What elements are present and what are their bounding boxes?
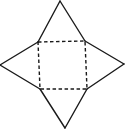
triangle-top-edge — [38, 1, 60, 42]
triangle-left-edge — [0, 42, 38, 65]
base-square-dashed — [38, 41, 87, 89]
triangle-left-edge — [0, 65, 40, 89]
pyramid-net-diagram — [0, 0, 125, 129]
triangle-bottom-edge — [65, 89, 87, 128]
triangle-faces — [0, 1, 124, 128]
triangle-bottom-edge — [40, 89, 65, 128]
triangle-right-edge — [87, 64, 124, 89]
triangle-top-edge — [60, 1, 85, 41]
triangle-right-edge — [85, 41, 124, 64]
